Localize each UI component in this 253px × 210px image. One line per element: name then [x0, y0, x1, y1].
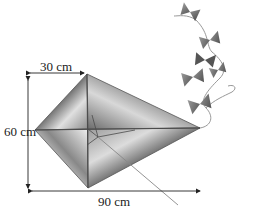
dimension-label-top-width: 30 cm [40, 60, 72, 73]
tail-bow-2 [199, 31, 222, 50]
dimension-label-total-width: 90 cm [98, 195, 130, 208]
dimension-label-height: 60 cm [4, 125, 36, 138]
tail-bow-1 [179, 2, 201, 21]
kite-body [35, 74, 200, 188]
kite-diagram [0, 0, 253, 210]
tail-bow-3 [194, 51, 216, 68]
tail-bow-4 [181, 68, 205, 87]
kite-tail [174, 2, 235, 128]
